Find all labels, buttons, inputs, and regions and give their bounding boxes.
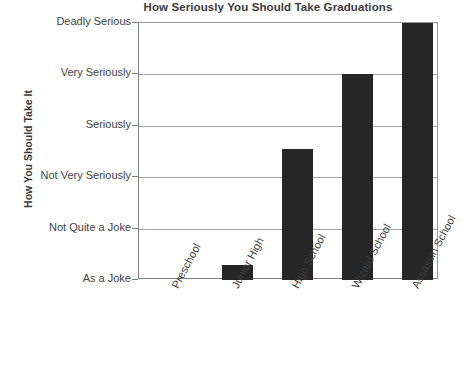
y-axis-tick-label: As a Joke: [0, 273, 131, 284]
y-axis-tick-label: Seriously: [0, 119, 131, 130]
gridline: [139, 74, 437, 75]
gridline: [139, 126, 437, 127]
y-axis-title: How You Should Take It: [22, 69, 34, 229]
y-axis-tick-mark: [132, 279, 138, 280]
y-axis-tick-label: Not Very Seriously: [0, 170, 131, 181]
y-axis-tick-label: Very Seriously: [0, 67, 131, 78]
chart-title: How Seriously You Should Take Graduation…: [120, 1, 416, 13]
y-axis-tick-label: Deadly Serious: [0, 16, 131, 27]
bar-assassin-school[interactable]: [402, 23, 433, 280]
y-axis-tick-label: Not Quite a Joke: [0, 222, 131, 233]
plot-area: [138, 22, 438, 279]
